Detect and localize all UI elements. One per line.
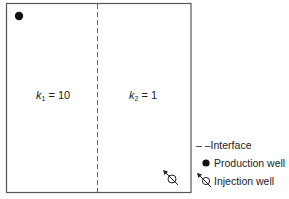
- legend-interface: – –Interface: [196, 139, 251, 151]
- reservoir-boundary: [7, 4, 192, 193]
- region-label-k1: k1 = 10: [36, 89, 70, 102]
- injection-well-icon: [163, 170, 178, 185]
- legend-production-icon: [202, 159, 209, 166]
- legend-injection: Injection well: [214, 175, 274, 187]
- production-well-icon: [15, 12, 23, 20]
- region-label-k2: k2 = 1: [129, 89, 157, 102]
- legend-production: Production well: [214, 157, 285, 169]
- legend-injection-icon: [197, 173, 211, 187]
- legend-interface-icon: – –: [196, 139, 211, 151]
